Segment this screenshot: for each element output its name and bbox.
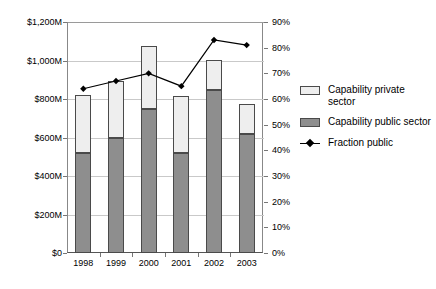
- x-axis-labels: 199819992000200120022003: [67, 258, 263, 274]
- y-axis-right-tick-label: 30%: [272, 172, 290, 181]
- fraction-public-polyline: [83, 40, 246, 89]
- y-axis-right-tick: [264, 176, 268, 177]
- y-axis-left-tick-label: $0: [2, 249, 62, 258]
- fraction-public-marker: [80, 86, 86, 92]
- legend-label-public: Capability public sector: [328, 116, 431, 128]
- y-axis-right-tick-label: 70%: [272, 69, 290, 78]
- y-axis-right-tick-label: 80%: [272, 44, 290, 53]
- chart-container: $0$200M$400M$600M$800M$1,000M$1,200M 0%1…: [0, 0, 436, 289]
- public-sector-swatch-icon: [300, 118, 320, 127]
- y-axis-left-tick: [63, 22, 67, 23]
- y-axis-right-tick: [264, 125, 268, 126]
- y-axis-right-tick: [264, 227, 268, 228]
- y-axis-right-tick: [264, 202, 268, 203]
- legend-label-fraction: Fraction public: [328, 137, 393, 149]
- x-axis-tick-label: 2003: [227, 258, 267, 268]
- y-axis-right-tick: [264, 150, 268, 151]
- y-axis-left-tick-label: $200M: [2, 211, 62, 220]
- y-axis-right-tick: [264, 22, 268, 23]
- y-axis-right-tick: [264, 99, 268, 100]
- y-axis-right-tick-label: 20%: [272, 198, 290, 207]
- y-axis-left: $0$200M$400M$600M$800M$1,000M$1,200M: [0, 0, 62, 289]
- legend-item-capability-public-sector: Capability public sector: [300, 116, 436, 128]
- y-axis-right-tick: [264, 73, 268, 74]
- legend-item-capability-private-sector: Capability private sector: [300, 84, 436, 107]
- private-sector-swatch-icon: [300, 86, 320, 95]
- y-axis-left-tick-label: $1,200M: [2, 18, 62, 27]
- y-axis-right-tick-label: 50%: [272, 121, 290, 130]
- y-axis-left-tick-label: $400M: [2, 172, 62, 181]
- x-axis-tick: [198, 253, 199, 257]
- y-axis-left-tick: [63, 253, 67, 254]
- y-axis-left-tick-label: $800M: [2, 95, 62, 104]
- y-axis-right-tick: [264, 48, 268, 49]
- y-axis-left-tick: [63, 215, 67, 216]
- y-axis-left-tick-label: $600M: [2, 134, 62, 143]
- y-axis-left-tick: [63, 176, 67, 177]
- legend-label-private: Capability private sector: [328, 84, 432, 107]
- fraction-public-marker: [243, 42, 249, 48]
- y-axis-right-tick-label: 40%: [272, 146, 290, 155]
- chart-legend: Capability private sector Capability pub…: [300, 84, 436, 157]
- y-axis-left-tick: [63, 138, 67, 139]
- fraction-public-marker: [113, 78, 119, 84]
- x-axis-tick: [165, 253, 166, 257]
- y-axis-right-tick: [264, 253, 268, 254]
- y-axis-left-tick: [63, 99, 67, 100]
- y-axis-left-tick-label: $1,000M: [2, 57, 62, 66]
- y-axis-right-tick-label: 60%: [272, 95, 290, 104]
- x-axis-tick: [100, 253, 101, 257]
- legend-item-fraction-public: Fraction public: [300, 137, 436, 149]
- x-axis-tick: [132, 253, 133, 257]
- fraction-public-line-swatch-icon: [300, 139, 320, 148]
- y-axis-right-tick-label: 10%: [272, 223, 290, 232]
- fraction-public-line-series: [67, 22, 263, 253]
- y-axis-right-tick-label: 0%: [272, 249, 285, 258]
- y-axis-left-tick: [63, 61, 67, 62]
- x-axis-tick: [230, 253, 231, 257]
- fraction-public-marker: [145, 70, 151, 76]
- y-axis-right-tick-label: 90%: [272, 18, 290, 27]
